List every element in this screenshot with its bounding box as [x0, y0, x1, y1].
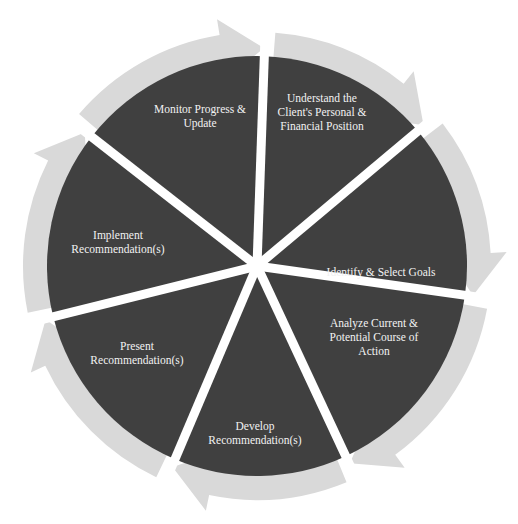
planning-cycle-diagram: Understand theClient's Personal &Financi… [0, 0, 518, 524]
step-label-identify: Identify & Select Goals [327, 266, 436, 279]
step-label-line: Recommendation(s) [71, 243, 164, 256]
step-label-line: Recommendation(s) [208, 434, 301, 447]
step-label-line: Implement [93, 229, 144, 242]
step-label-line: Monitor Progress & [154, 103, 246, 116]
step-label-line: Recommendation(s) [90, 354, 183, 367]
step-label-line: Action [358, 345, 390, 357]
step-label-line: Potential Course of [330, 331, 419, 343]
step-label-understand: Understand theClient's Personal &Financi… [278, 92, 367, 132]
step-label-line: Financial Position [280, 120, 364, 132]
step-label-line: Present [120, 340, 155, 352]
step-label-line: Identify & Select Goals [327, 266, 436, 279]
step-label-line: Update [183, 117, 216, 130]
step-label-line: Analyze Current & [330, 317, 418, 330]
step-label-line: Develop [236, 420, 275, 433]
step-label-line: Client's Personal & [278, 106, 367, 118]
step-label-line: Understand the [287, 92, 357, 104]
